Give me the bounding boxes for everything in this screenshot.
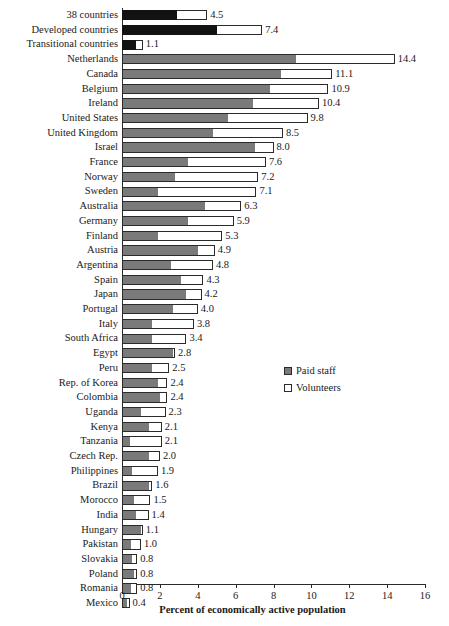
stacked-bar [122, 10, 207, 20]
bar-segment-volunteers [205, 201, 241, 211]
stacked-bar [122, 260, 213, 270]
x-axis-tick [311, 584, 312, 588]
bar-segment-paid-staff [122, 422, 149, 432]
bar-row-label: Japan [0, 287, 122, 302]
bar-segment-paid-staff [122, 466, 132, 476]
stacked-bar [122, 525, 143, 535]
bar-row-label: Philippines [0, 464, 122, 479]
x-axis-tick-label: 6 [221, 589, 251, 602]
stacked-bar [122, 54, 395, 64]
bar-segment-paid-staff [122, 510, 136, 520]
bar-segment-volunteers [149, 422, 162, 432]
bar-segment-paid-staff [122, 348, 173, 358]
bar-value-label: 10.4 [322, 96, 340, 111]
bar-value-label: 2.8 [178, 346, 191, 361]
bar-segment-volunteers [228, 113, 308, 123]
bar-value-label: 14.4 [398, 52, 416, 67]
bar-segment-paid-staff [122, 40, 136, 50]
bar-segment-paid-staff [122, 363, 152, 373]
bar-segment-volunteers [152, 319, 194, 329]
bar-row: Argentina4.8 [0, 258, 449, 273]
bar-row: Spain4.3 [0, 273, 449, 288]
bar-segment-volunteers [175, 172, 258, 182]
bar-segment-volunteers [136, 510, 148, 520]
bar-value-label: 8.5 [286, 126, 299, 141]
bar-row-label: Netherlands [0, 52, 122, 67]
bar-value-label: 2.1 [165, 420, 178, 435]
bar-chart: 38 countries4.5Developed countries7.4Tra… [0, 0, 449, 626]
bar-value-label: 9.8 [311, 111, 324, 126]
bar-segment-paid-staff [122, 260, 171, 270]
bar-row: 38 countries4.5 [0, 8, 449, 23]
stacked-bar [122, 392, 167, 402]
bar-row: Hungary1.1 [0, 523, 449, 538]
stacked-bar [122, 98, 319, 108]
bar-value-label: 0.8 [140, 567, 153, 582]
bar-row-label: United Kingdom [0, 126, 122, 141]
chart-legend: Paid staff Volunteers [284, 362, 341, 396]
bar-segment-volunteers [141, 525, 143, 535]
bar-row: Colombia2.4 [0, 390, 449, 405]
x-axis-title-text: Percent of economically active populatio… [159, 604, 345, 615]
bar-row: India1.4 [0, 508, 449, 523]
bar-row-label: Morocco [0, 493, 122, 508]
bar-value-label: 10.9 [331, 82, 349, 97]
bar-value-label: 4.2 [205, 287, 218, 302]
stacked-bar [122, 407, 166, 417]
bar-segment-volunteers [134, 569, 137, 579]
bar-row: Israel8.0 [0, 140, 449, 155]
bar-segment-volunteers [141, 407, 166, 417]
bar-row: United Kingdom8.5 [0, 126, 449, 141]
bar-row-label: Romania [0, 581, 122, 596]
stacked-bar [122, 84, 328, 94]
bar-segment-volunteers [149, 481, 152, 491]
bar-segment-paid-staff [122, 392, 160, 402]
bar-value-label: 7.4 [265, 23, 278, 38]
bar-row-label: Australia [0, 199, 122, 214]
bar-segment-volunteers [173, 348, 175, 358]
bar-segment-paid-staff [122, 231, 158, 241]
bar-segment-paid-staff [122, 245, 198, 255]
bar-row-label: Developed countries [0, 23, 122, 38]
stacked-bar [122, 334, 186, 344]
stacked-bar [122, 245, 215, 255]
bar-row: Canada11.1 [0, 67, 449, 82]
bar-row: Poland0.8 [0, 567, 449, 582]
stacked-bar [122, 231, 222, 241]
bar-segment-paid-staff [122, 172, 175, 182]
bar-row: Philippines1.9 [0, 464, 449, 479]
stacked-bar [122, 40, 143, 50]
bar-row-label: Czech Rep. [0, 449, 122, 464]
bar-segment-paid-staff [122, 69, 281, 79]
bar-segment-volunteers [270, 84, 329, 94]
bar-value-label: 8.0 [277, 140, 290, 155]
bar-segment-paid-staff [122, 407, 141, 417]
bar-segment-paid-staff [122, 201, 205, 211]
stacked-bar [122, 451, 160, 461]
bar-segment-paid-staff [122, 289, 186, 299]
bar-value-label: 1.4 [152, 508, 165, 523]
x-axis-tick [425, 584, 426, 588]
bar-row-label: Rep. of Korea [0, 376, 122, 391]
bar-segment-volunteers [188, 216, 233, 226]
bar-row-label: United States [0, 111, 122, 126]
bar-value-label: 3.8 [197, 317, 210, 332]
bar-row: Egypt2.8 [0, 346, 449, 361]
bar-value-label: 4.3 [206, 273, 219, 288]
bar-segment-volunteers [177, 10, 207, 20]
x-axis-tick [236, 584, 237, 588]
stacked-bar [122, 466, 158, 476]
bar-segment-paid-staff [122, 84, 270, 94]
bar-row-label: Ireland [0, 96, 122, 111]
stacked-bar [122, 69, 332, 79]
x-axis-tick-label: 10 [296, 589, 326, 602]
x-axis-tick-label: 16 [410, 589, 440, 602]
bar-segment-volunteers [149, 451, 160, 461]
bar-segment-volunteers [158, 187, 256, 197]
bar-segment-paid-staff [122, 54, 296, 64]
bar-value-label: 4.0 [201, 302, 214, 317]
bar-value-label: 1.1 [146, 523, 159, 538]
bar-row-label: Portugal [0, 302, 122, 317]
bar-row: France7.6 [0, 155, 449, 170]
stacked-bar [122, 113, 308, 123]
